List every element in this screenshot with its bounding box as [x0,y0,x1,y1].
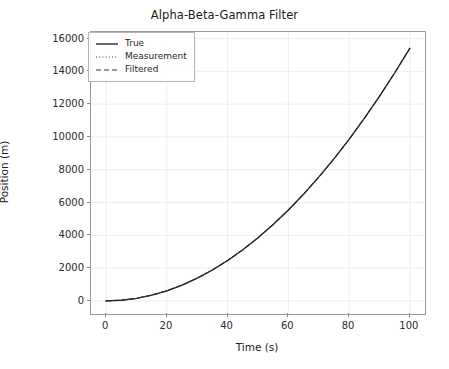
y-tick-label: 6000 [59,196,84,207]
x-tick-label: 40 [220,320,233,331]
y-axis-label: Position (m) [0,141,10,204]
x-tick-label: 80 [342,320,355,331]
series-measurement [106,48,410,300]
y-tick-label: 2000 [59,262,84,273]
y-tick-mark [87,202,91,203]
x-tick-label: 100 [399,320,418,331]
legend-item-measurement[interactable]: Measurement [95,50,187,63]
x-tick-label: 0 [102,320,108,331]
x-tick-mark [105,313,106,317]
x-tick-mark [287,313,288,317]
legend-label: Measurement [125,50,187,63]
legend-line-icon [95,39,119,49]
y-tick-label: 10000 [52,130,84,141]
series-filtered [106,48,410,300]
y-tick-label: 14000 [52,65,84,76]
x-tick-label: 60 [281,320,294,331]
legend-line-icon [95,52,119,62]
legend-item-true[interactable]: True [95,37,187,50]
y-tick-mark [87,103,91,104]
figure-canvas: Alpha-Beta-Gamma Filter 0200040006000800… [0,0,449,369]
x-tick-mark [227,313,228,317]
series-true [106,48,410,300]
x-tick-label: 20 [160,320,173,331]
y-tick-mark [87,267,91,268]
legend-line-icon [95,65,119,75]
x-tick-mark [348,313,349,317]
legend-label: Filtered [125,63,158,76]
legend[interactable]: TrueMeasurementFiltered [88,32,195,82]
x-tick-mark [166,313,167,317]
x-tick-mark [409,313,410,317]
page-title: Alpha-Beta-Gamma Filter [0,8,449,22]
y-tick-mark [87,300,91,301]
y-tick-label: 8000 [59,163,84,174]
legend-item-filtered[interactable]: Filtered [95,63,187,76]
y-tick-label: 12000 [52,98,84,109]
x-axis-label: Time (s) [90,341,424,353]
legend-label: True [125,37,144,50]
y-tick-mark [87,169,91,170]
y-tick-mark [87,136,91,137]
y-tick-label: 0 [78,294,84,305]
y-tick-label: 4000 [59,229,84,240]
y-tick-mark [87,234,91,235]
y-tick-label: 16000 [52,32,84,43]
